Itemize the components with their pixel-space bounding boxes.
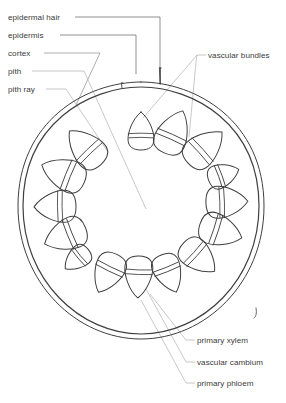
cambium-band-lower bbox=[219, 187, 220, 217]
cambium-band-lower bbox=[66, 219, 78, 247]
label-pith-ray: pith ray bbox=[8, 85, 35, 95]
bundle-outline bbox=[124, 256, 153, 299]
bundle-outline bbox=[148, 250, 189, 298]
cambium-band-lower bbox=[65, 162, 77, 190]
cambium-band-upper bbox=[213, 215, 223, 245]
cambium-band-lower bbox=[98, 260, 124, 273]
cambium-band-upper bbox=[61, 220, 73, 249]
epidermal-hair-large bbox=[159, 68, 161, 84]
cambium-band-lower bbox=[214, 166, 222, 187]
leader-vascular-cambium bbox=[146, 289, 195, 362]
vascular-bundle bbox=[148, 250, 189, 298]
label-vascular-cambium: vascular cambium bbox=[197, 358, 263, 368]
leader-vascular-bundles-b bbox=[189, 55, 197, 137]
label-primary-phloem: primary phloem bbox=[197, 379, 253, 389]
label-cortex: cortex bbox=[8, 49, 30, 59]
cambium-band-lower bbox=[209, 214, 219, 243]
cambium-band-lower bbox=[154, 262, 178, 272]
cambium-band-upper bbox=[155, 266, 181, 277]
cambium-band-upper bbox=[158, 128, 187, 141]
vascular-bundle bbox=[58, 241, 95, 277]
cambium-band-upper bbox=[192, 138, 213, 162]
cambium-band-upper bbox=[218, 164, 226, 186]
epidermis-notch-right bbox=[254, 308, 256, 318]
vascular-bundle bbox=[195, 209, 247, 253]
bundle-outline bbox=[34, 190, 77, 223]
vascular-bundle bbox=[177, 120, 233, 175]
cortex-outline bbox=[23, 87, 259, 334]
bundle-outline bbox=[195, 209, 247, 253]
leader-pith bbox=[32, 71, 146, 209]
cambium-band-lower bbox=[156, 133, 184, 146]
bundle-outline bbox=[39, 213, 92, 259]
vascular-bundle bbox=[205, 185, 248, 218]
leader-epidermal-hair bbox=[75, 17, 160, 68]
vascular-bundle bbox=[124, 256, 153, 299]
bundle-outline bbox=[58, 241, 95, 277]
bundle-outline bbox=[150, 104, 198, 159]
cambium-band-upper bbox=[76, 139, 99, 161]
cambium-band-lower bbox=[126, 269, 152, 270]
vascular-bundle bbox=[150, 104, 198, 159]
vascular-bundle bbox=[128, 112, 154, 150]
label-vascular-bundles: vascular bundles bbox=[208, 51, 270, 61]
leader-epidermis bbox=[60, 35, 136, 74]
vascular-bundle bbox=[39, 213, 92, 259]
label-epidermis: epidermis bbox=[8, 31, 44, 41]
label-epidermal-hair: epidermal hair bbox=[8, 13, 60, 23]
label-primary-xylem: primary xylem bbox=[197, 336, 248, 346]
leader-lines bbox=[32, 17, 206, 383]
cambium-band-upper bbox=[187, 244, 207, 266]
stem-outline-group bbox=[18, 68, 264, 339]
cambium-band-upper bbox=[71, 249, 85, 266]
bundle-outline bbox=[128, 112, 154, 150]
cambium-band-upper bbox=[125, 274, 153, 275]
bundle-outline bbox=[177, 120, 233, 175]
vascular-bundle-ring bbox=[34, 104, 249, 298]
leader-primary-phloem bbox=[141, 300, 195, 383]
cambium-band-upper bbox=[223, 186, 225, 217]
cambium-band-upper bbox=[57, 191, 58, 222]
bundle-outline bbox=[205, 185, 248, 218]
label-pith: pith bbox=[8, 67, 21, 77]
cambium-band-upper bbox=[60, 160, 72, 189]
leader-pith-ray bbox=[46, 89, 108, 152]
vascular-bundle bbox=[34, 190, 77, 223]
cambium-band-lower bbox=[62, 191, 63, 221]
